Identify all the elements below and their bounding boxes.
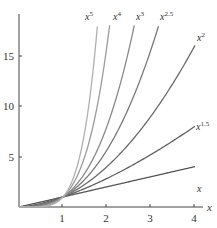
axes [19,14,203,207]
x-tick-label-4: 4 [191,212,197,224]
y-tick-label-15: 15 [3,50,15,62]
label-x2: x2 [196,31,205,43]
curve-x-pow-3 [19,25,134,207]
label-x: x [196,183,202,194]
x-tick-labels: 1 2 3 4 [59,212,197,224]
label-x1.5: x1.5 [195,120,210,132]
curve-x-pow-4 [19,25,110,207]
curve-x-pow-5 [19,27,97,207]
x-tick-label-3: 3 [147,212,153,224]
curves [19,25,195,207]
label-x2.5: x2.5 [159,10,174,22]
x-axis-label: x [206,201,212,213]
label-x3: x3 [135,10,144,22]
label-x4: x4 [112,10,121,22]
x-tick-label-2: 2 [103,212,109,224]
y-tick-label-10: 10 [3,100,15,112]
x-tick-label-1: 1 [59,212,65,224]
y-tick-label-5: 5 [9,151,15,163]
power-functions-chart: 1 2 3 4 5 10 15 x x x1.5 x2 x2.5 x3 x4 x… [0,0,217,228]
y-tick-labels: 5 10 15 [3,50,15,163]
curve-x [19,167,195,207]
curve-labels: x x1.5 x2 x2.5 x3 x4 x5 [84,10,210,194]
label-x5: x5 [84,10,93,22]
